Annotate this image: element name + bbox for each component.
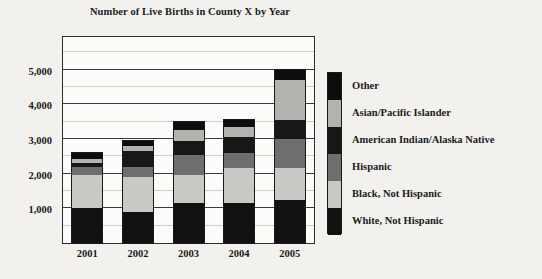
bar-segment xyxy=(224,203,254,243)
legend-swatch xyxy=(328,181,341,208)
bar-segment xyxy=(224,153,254,169)
x-axis-tick-label: 2005 xyxy=(279,248,300,259)
x-axis-tick-label: 2001 xyxy=(77,248,98,259)
y-axis-tick-label: 3,000 xyxy=(28,135,52,146)
y-axis-tick-label: 1,000 xyxy=(28,204,52,215)
bar-segment xyxy=(174,122,204,131)
bar-segment xyxy=(174,141,204,155)
bar-segment xyxy=(123,167,153,177)
bar-segment xyxy=(72,167,102,175)
legend-swatch xyxy=(328,154,341,181)
bars-layer xyxy=(62,36,315,244)
x-axis-tick-label: 2004 xyxy=(229,248,250,259)
legend-swatch xyxy=(328,127,341,154)
legend-item-label: White, Not Hispanic xyxy=(352,207,537,234)
legend-item-label: Black, Not Hispanic xyxy=(352,180,537,207)
bar-segment xyxy=(275,120,305,139)
bar-segment xyxy=(275,70,305,80)
bar-segment xyxy=(174,175,204,203)
legend-swatch xyxy=(328,73,341,100)
bar-stack xyxy=(173,121,205,244)
bar-segment xyxy=(123,177,153,212)
chart-page: Number of Live Births in County X by Yea… xyxy=(0,0,542,279)
bar-segment xyxy=(174,130,204,140)
x-axis-labels: 20012002200320042005 xyxy=(62,248,315,268)
bar-segment xyxy=(275,168,305,199)
bar-stack xyxy=(71,152,103,244)
legend-color-strip xyxy=(327,72,342,234)
x-axis-tick-label: 2003 xyxy=(178,248,199,259)
bar-segment xyxy=(123,151,153,167)
legend-item-label: Hispanic xyxy=(352,153,537,180)
legend-items: OtherAsian/Pacific IslanderAmerican Indi… xyxy=(352,72,537,234)
y-axis-labels: 1,0002,0003,0004,0005,000 xyxy=(0,36,58,244)
bar-segment xyxy=(174,203,204,243)
bar-segment xyxy=(224,120,254,127)
bar-segment xyxy=(174,155,204,176)
bar-segment xyxy=(72,208,102,243)
bar-stack xyxy=(223,119,255,244)
bar-segment xyxy=(224,168,254,203)
page-title: Number of Live Births in County X by Yea… xyxy=(60,6,320,17)
x-axis-tick-label: 2002 xyxy=(127,248,148,259)
bar-segment xyxy=(72,175,102,208)
legend-item-label: Asian/Pacific Islander xyxy=(352,99,537,126)
bar-stack xyxy=(122,140,154,244)
y-axis-tick-label: 2,000 xyxy=(28,169,52,180)
legend-item-label: American Indian/Alaska Native xyxy=(352,126,537,153)
bar-segment xyxy=(275,200,305,243)
legend-swatch xyxy=(328,100,341,127)
y-axis-tick-label: 5,000 xyxy=(28,65,52,76)
bar-stack xyxy=(274,69,306,244)
bar-segment xyxy=(275,80,305,120)
bar-segment xyxy=(224,137,254,153)
y-axis-tick-label: 4,000 xyxy=(28,100,52,111)
legend-swatch xyxy=(328,208,341,235)
bar-segment xyxy=(123,212,153,243)
legend-item-label: Other xyxy=(352,72,537,99)
bar-segment xyxy=(224,127,254,137)
bar-segment xyxy=(275,139,305,168)
